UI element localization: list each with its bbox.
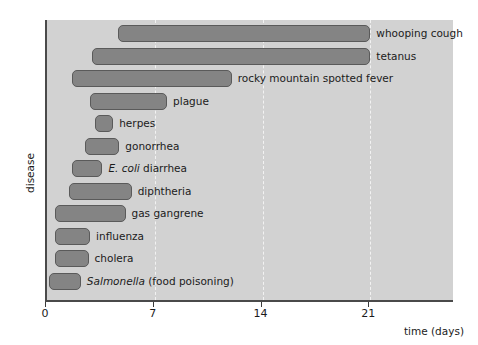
bar-row: herpes	[47, 113, 453, 135]
bar[interactable]	[49, 273, 81, 290]
bar-label: plague	[173, 92, 209, 111]
bar-row: rocky mountain spotted fever	[47, 68, 453, 90]
bar[interactable]	[90, 93, 167, 110]
bar-row: diphtheria	[47, 181, 453, 203]
bar[interactable]	[118, 25, 370, 42]
bar-row: Salmonella (food poisoning)	[47, 271, 453, 293]
bar[interactable]	[72, 70, 232, 87]
bar-label: tetanus	[376, 47, 416, 66]
x-tick-label-21: 21	[361, 307, 375, 320]
bar-label: Salmonella (food poisoning)	[87, 272, 234, 291]
bar[interactable]	[85, 138, 119, 155]
bar-row: plague	[47, 91, 453, 113]
bar-row: cholera	[47, 248, 453, 270]
bar-label: diphtheria	[138, 182, 192, 201]
bar-row: gonorrhea	[47, 136, 453, 158]
x-axis-label: time (days)	[404, 325, 464, 337]
bar-label: influenza	[96, 227, 144, 246]
bar-label: herpes	[119, 114, 155, 133]
bar-row: gas gangrene	[47, 203, 453, 225]
x-tick-label-7: 7	[149, 307, 156, 320]
bar-label: rocky mountain spotted fever	[238, 69, 393, 88]
bar-row: influenza	[47, 226, 453, 248]
bar-label: gas gangrene	[132, 204, 204, 223]
bar[interactable]	[69, 183, 132, 200]
bar-label: gonorrhea	[125, 137, 179, 156]
chart-figure: whooping coughtetanusrocky mountain spot…	[0, 0, 478, 345]
bar[interactable]	[92, 48, 371, 65]
x-tick-label-14: 14	[254, 307, 268, 320]
bar[interactable]	[55, 228, 90, 245]
bar-label: whooping cough	[376, 24, 463, 43]
bar-series: whooping coughtetanusrocky mountain spot…	[47, 20, 453, 300]
bar-row: E. coli diarrhea	[47, 158, 453, 180]
bar-row: tetanus	[47, 46, 453, 68]
bar[interactable]	[95, 115, 113, 132]
bar-row: whooping cough	[47, 23, 453, 45]
bar[interactable]	[55, 250, 89, 267]
bar-label: E. coli diarrhea	[108, 159, 187, 178]
bar[interactable]	[72, 160, 103, 177]
y-axis-label: disease	[24, 153, 36, 193]
plot-area: whooping coughtetanusrocky mountain spot…	[45, 20, 453, 302]
bar-label: cholera	[95, 249, 134, 268]
x-tick-label-0: 0	[42, 307, 49, 320]
bar[interactable]	[55, 205, 126, 222]
